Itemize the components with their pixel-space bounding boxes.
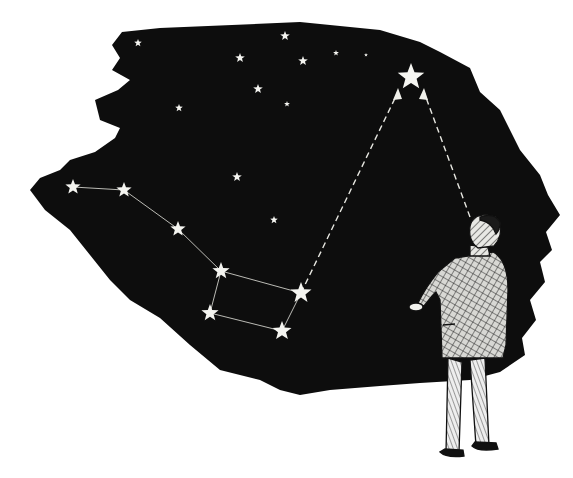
hand bbox=[409, 303, 423, 311]
star-gazer-illustration bbox=[0, 0, 573, 478]
left-shoe bbox=[440, 449, 464, 457]
left-leg bbox=[446, 358, 462, 452]
right-leg bbox=[470, 358, 489, 446]
right-shoe bbox=[472, 442, 498, 450]
